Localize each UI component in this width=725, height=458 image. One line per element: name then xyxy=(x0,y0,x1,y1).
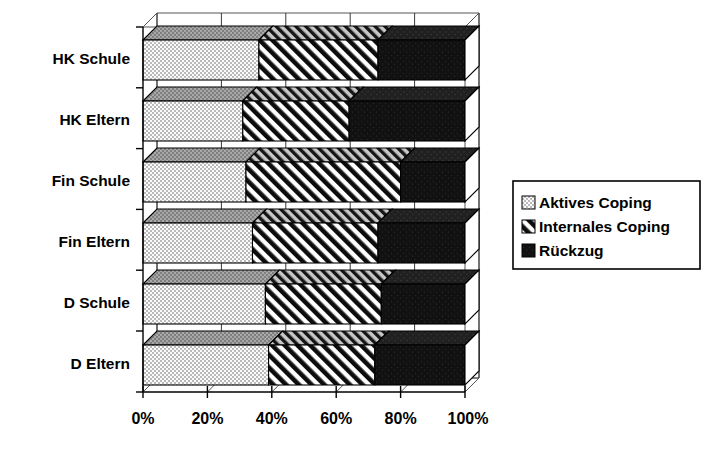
y-tick-label: HK Eltern xyxy=(59,111,130,128)
chart-root: HK Schule HK Eltern Fin Schule Fin Elter… xyxy=(0,0,725,458)
x-tick-label: 0% xyxy=(131,410,154,427)
bar-group-hk-eltern[interactable] xyxy=(143,87,479,141)
legend-item-internales-coping[interactable]: Internales Coping xyxy=(522,218,670,235)
bar-group-fin-eltern[interactable] xyxy=(143,209,479,263)
y-axis xyxy=(136,27,143,392)
bar-group-hk-schule[interactable] xyxy=(143,26,479,80)
x-tick-label: 80% xyxy=(385,410,417,427)
dotted-swatch xyxy=(522,196,535,209)
legend-label: Rückzug xyxy=(539,242,604,259)
x-tick-label: 100% xyxy=(448,410,489,427)
bar-group-d-schule[interactable] xyxy=(143,270,479,324)
legend-label: Internales Coping xyxy=(539,218,670,235)
y-tick-label: Fin Eltern xyxy=(59,233,130,250)
x-axis-labels: 0% 20% 40% 60% 80% 100% xyxy=(131,410,488,427)
y-axis-labels: HK Schule HK Eltern Fin Schule Fin Elter… xyxy=(52,50,131,372)
y-tick-label: HK Schule xyxy=(52,50,130,67)
y-tick-label: D Schule xyxy=(64,294,131,311)
solid-black-swatch xyxy=(522,244,535,257)
legend-label: Aktives Coping xyxy=(539,194,652,211)
hatch-swatch xyxy=(522,220,535,233)
x-axis xyxy=(143,386,465,398)
legend: Aktives Coping Internales Coping Rückzug xyxy=(513,181,700,269)
legend-item-rueckzug[interactable]: Rückzug xyxy=(522,242,604,259)
y-tick-label: D Eltern xyxy=(71,355,130,372)
bar-group-fin-schule[interactable] xyxy=(143,148,479,202)
x-tick-label: 20% xyxy=(191,410,223,427)
legend-item-aktives-coping[interactable]: Aktives Coping xyxy=(522,194,652,211)
y-tick-label: Fin Schule xyxy=(52,172,131,189)
stacked-bar-chart: HK Schule HK Eltern Fin Schule Fin Elter… xyxy=(0,0,725,458)
bar-group-d-eltern[interactable] xyxy=(143,331,479,385)
x-tick-label: 40% xyxy=(256,410,288,427)
x-tick-label: 60% xyxy=(320,410,352,427)
